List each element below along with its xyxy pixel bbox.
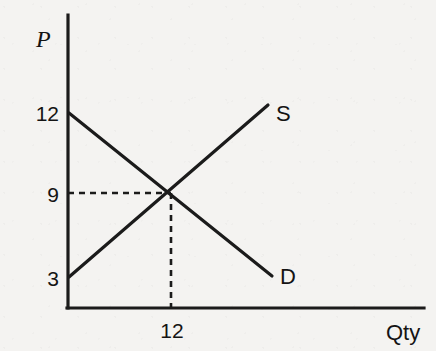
x-tick-label-12: 12 <box>160 319 183 342</box>
quantity-axis-title: Qty <box>386 320 420 345</box>
demand-curve-label: D <box>280 264 296 289</box>
supply-curve-label: S <box>276 101 291 126</box>
y-tick-label-3: 3 <box>47 267 59 290</box>
y-tick-label-12: 12 <box>36 102 59 125</box>
chart-canvas: P Qty 12 9 3 12 S D <box>0 0 436 351</box>
y-tick-label-9: 9 <box>47 183 59 206</box>
price-axis-title: P <box>35 26 51 52</box>
supply-demand-chart: P Qty 12 9 3 12 S D <box>0 0 436 351</box>
supply-curve <box>69 105 268 277</box>
